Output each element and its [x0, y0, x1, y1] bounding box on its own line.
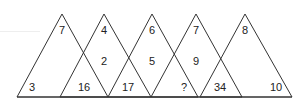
t3-apex-number: 6	[149, 24, 155, 36]
triangles-diagram	[0, 0, 305, 103]
middle-number-2: 5	[149, 55, 155, 67]
bottom-number-3: 17	[122, 81, 134, 93]
missing-number: ?	[181, 81, 187, 93]
t5-apex-number: 8	[242, 24, 248, 36]
bottom-number-5: 34	[214, 81, 226, 93]
t1-apex-number: 7	[59, 24, 65, 36]
middle-number-1: 2	[101, 55, 107, 67]
bottom-number-2: 16	[78, 81, 90, 93]
bottom-number-1: 3	[29, 81, 35, 93]
middle-number-3: 9	[193, 55, 199, 67]
t4-apex-number: 7	[193, 24, 199, 36]
bottom-number-6: 10	[270, 81, 282, 93]
t2-apex-number: 4	[101, 24, 107, 36]
